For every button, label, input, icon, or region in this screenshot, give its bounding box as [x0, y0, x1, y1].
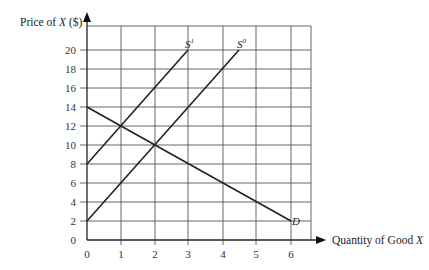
- svg-text:6: 6: [288, 248, 294, 260]
- svg-text:5: 5: [253, 248, 259, 260]
- x-axis-label: Quantity of Good X: [332, 234, 424, 247]
- svg-text:4: 4: [71, 196, 77, 208]
- y-axis-label: Price of X ($): [20, 16, 82, 29]
- y-tick-labels: 0 2 4 6 8 10 12 14 16 18 20: [65, 44, 77, 246]
- svg-text:10: 10: [65, 139, 77, 151]
- svg-text:12: 12: [65, 120, 76, 132]
- supply-curve-s0: [87, 50, 239, 221]
- svg-text:14: 14: [65, 101, 77, 113]
- svg-text:3: 3: [185, 248, 191, 260]
- curve-label-s1: S1: [185, 37, 194, 50]
- x-axis-arrow-icon: [316, 236, 326, 244]
- y-axis-arrow-icon: [83, 12, 91, 22]
- svg-text:6: 6: [71, 177, 77, 189]
- svg-text:4: 4: [220, 248, 226, 260]
- svg-text:2: 2: [152, 248, 158, 260]
- svg-text:20: 20: [65, 44, 77, 56]
- svg-text:0: 0: [71, 234, 77, 246]
- svg-text:0: 0: [84, 248, 90, 260]
- curve-label-d: D: [291, 215, 300, 227]
- svg-text:16: 16: [65, 82, 77, 94]
- supply-demand-chart: 0 2 4 6 8 10 12 14 16 18 20 0 1 2 3 4 5 …: [0, 0, 429, 270]
- svg-text:2: 2: [71, 215, 77, 227]
- svg-text:1: 1: [118, 248, 124, 260]
- svg-text:8: 8: [71, 158, 77, 170]
- x-tick-labels: 0 1 2 3 4 5 6: [84, 248, 294, 260]
- curve-label-s0: S0: [237, 37, 247, 50]
- svg-text:18: 18: [65, 63, 77, 75]
